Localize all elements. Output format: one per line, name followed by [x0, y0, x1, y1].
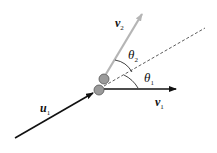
v1-label: v1 [155, 96, 164, 111]
ball-1 [94, 85, 104, 95]
dashed-reference-line [104, 28, 205, 86]
u1-label-sub: 1 [47, 109, 51, 117]
u1-arrow [15, 93, 93, 138]
theta1-label-sub: 1 [150, 79, 154, 87]
ball-2 [99, 74, 109, 84]
v2-label-sub: 2 [120, 24, 124, 32]
theta2-label: θ2 [128, 48, 138, 64]
theta2-label-sub: 2 [134, 56, 138, 64]
v1-label-sub: 1 [160, 103, 164, 111]
u1-label-base: u [40, 101, 47, 115]
u1-label: u1 [40, 102, 50, 117]
theta1-arc [124, 75, 138, 88]
collision-diagram [0, 0, 217, 153]
theta1-label: θ1 [144, 71, 154, 87]
v2-arrow [106, 14, 142, 74]
v2-label: v2 [115, 17, 124, 32]
